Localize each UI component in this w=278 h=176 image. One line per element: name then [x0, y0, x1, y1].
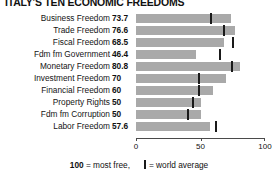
row-label: Fdm fm Government	[0, 49, 110, 60]
chart-title: ITALY'S TEN ECONOMIC FREEDOMS	[5, 0, 184, 8]
bar-rows: Business Freedom73.7Trade Freedom76.6Fis…	[0, 13, 278, 133]
row-plot	[136, 109, 265, 121]
world-average-marker	[223, 25, 225, 36]
row-value: 57.6	[112, 121, 132, 132]
legend-scale-text: = most free,	[84, 160, 130, 170]
row-value: 68.5	[112, 37, 132, 48]
row-plot	[136, 13, 265, 25]
row-plot	[136, 25, 265, 37]
axis-tick	[201, 138, 202, 141]
row-value: 46.4	[112, 49, 132, 60]
axis-tick-label: 0	[134, 142, 138, 151]
value-bar	[136, 50, 196, 59]
chart-row: Labor Freedom57.6	[0, 121, 278, 133]
economic-freedoms-chart: ITALY'S TEN ECONOMIC FREEDOMS Business F…	[0, 0, 278, 176]
row-label: Trade Freedom	[0, 25, 110, 36]
legend-marker-text: = world average	[149, 160, 208, 170]
row-plot	[136, 73, 265, 85]
value-bar	[136, 86, 213, 95]
row-value: 60	[112, 85, 132, 96]
value-bar	[136, 122, 210, 131]
world-average-marker	[198, 73, 200, 84]
world-average-marker	[187, 109, 189, 120]
row-plot	[136, 61, 265, 73]
chart-row: Business Freedom73.7	[0, 13, 278, 25]
row-value: 73.7	[112, 13, 132, 24]
value-bar	[136, 62, 240, 71]
value-bar	[136, 38, 224, 47]
chart-row: Monetary Freedom80.8	[0, 61, 278, 73]
chart-row: Investment Freedom70	[0, 73, 278, 85]
world-average-marker	[215, 121, 217, 132]
world-average-marker	[210, 13, 212, 24]
row-value: 76.6	[112, 25, 132, 36]
world-average-marker	[232, 37, 234, 48]
world-average-marker	[192, 97, 194, 108]
chart-row: Financial Freedom60	[0, 85, 278, 97]
value-bar	[136, 74, 226, 83]
row-value: 80.8	[112, 61, 132, 72]
row-label: Fdm fm Corruption	[0, 109, 110, 120]
world-average-marker	[231, 61, 233, 72]
row-label: Labor Freedom	[0, 121, 110, 132]
chart-row: Fdm fm Government46.4	[0, 49, 278, 61]
axis-tick	[264, 138, 265, 141]
legend-scale-bold: 100	[70, 160, 84, 170]
row-label: Fiscal Freedom	[0, 37, 110, 48]
value-bar	[136, 110, 201, 119]
row-value: 50	[112, 109, 132, 120]
world-average-marker	[198, 85, 200, 96]
value-bar	[136, 26, 235, 35]
row-label: Property Rights	[0, 97, 110, 108]
chart-row: Fiscal Freedom68.5	[0, 37, 278, 49]
row-plot	[136, 97, 265, 109]
row-label: Monetary Freedom	[0, 61, 110, 72]
row-label: Business Freedom	[0, 13, 110, 24]
axis-tick	[136, 138, 137, 141]
row-plot	[136, 121, 265, 133]
world-average-marker-icon	[144, 160, 146, 169]
row-plot	[136, 85, 265, 97]
chart-row: Property Rights50	[0, 97, 278, 109]
axis-tick-label: 50	[196, 142, 205, 151]
row-plot	[136, 37, 265, 49]
value-bar	[136, 14, 231, 23]
axis-tick-label: 100	[258, 142, 271, 151]
row-value: 70	[112, 73, 132, 84]
row-label: Financial Freedom	[0, 85, 110, 96]
row-label: Investment Freedom	[0, 73, 110, 84]
chart-legend: 100 = most free,= world average	[0, 160, 278, 170]
world-average-marker	[219, 49, 221, 60]
row-value: 50	[112, 97, 132, 108]
chart-row: Fdm fm Corruption50	[0, 109, 278, 121]
row-plot	[136, 49, 265, 61]
chart-row: Trade Freedom76.6	[0, 25, 278, 37]
